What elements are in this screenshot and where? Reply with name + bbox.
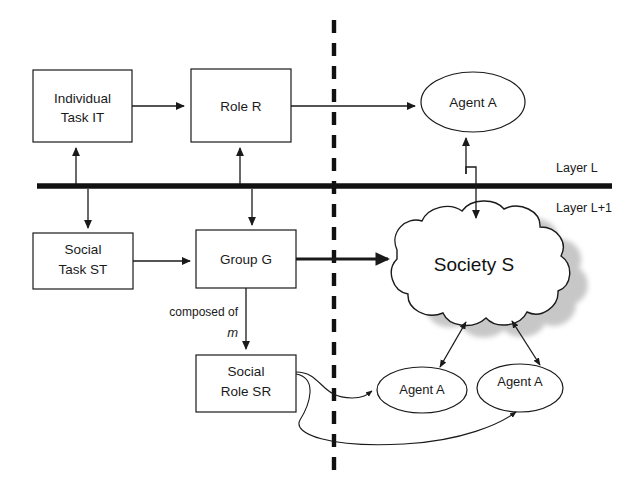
edge-label-multiplicity: m: [227, 325, 238, 340]
individual-task-box[interactable]: [33, 70, 132, 142]
agent-bottom-left-label: Agent A: [399, 382, 445, 397]
society-label: Society S: [434, 254, 514, 275]
social-role-label-line1: Social: [228, 364, 265, 379]
group-label: Group G: [220, 252, 272, 267]
social-role-label-line2: Role SR: [221, 384, 272, 399]
agent-top-label: Agent A: [449, 95, 496, 110]
diagram-canvas: Society S Individual Task IT Role R Agen…: [0, 0, 641, 489]
social-task-label-line1: Social: [65, 242, 102, 257]
edge-label-composed-of: composed of: [169, 305, 238, 319]
social-task-label-line2: Task ST: [59, 262, 108, 277]
role-label: Role R: [220, 99, 262, 114]
diagram-svg: Society S Individual Task IT Role R Agen…: [0, 0, 641, 489]
edge-step-jog: [466, 167, 476, 186]
layer-lower-label: Layer L+1: [556, 201, 612, 215]
layer-upper-label: Layer L: [556, 161, 598, 175]
edge-agent-bottom-left-to-society: [440, 322, 466, 367]
agent-bottom-right-label: Agent A: [497, 374, 543, 389]
individual-task-label-line2: Task IT: [61, 110, 105, 125]
individual-task-label-line1: Individual: [54, 91, 111, 106]
